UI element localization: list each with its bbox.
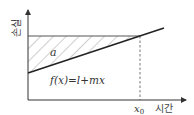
loss-time-diagram: 손실 a f(x)=l+mx x0 시간: [0, 0, 194, 115]
function-label: f(x)=l+mx: [49, 74, 105, 86]
x0-label: x0: [134, 103, 144, 115]
x-axis-label: 시간: [155, 103, 173, 114]
y-axis-label: 손실: [11, 19, 22, 37]
region-label: a: [50, 46, 57, 59]
